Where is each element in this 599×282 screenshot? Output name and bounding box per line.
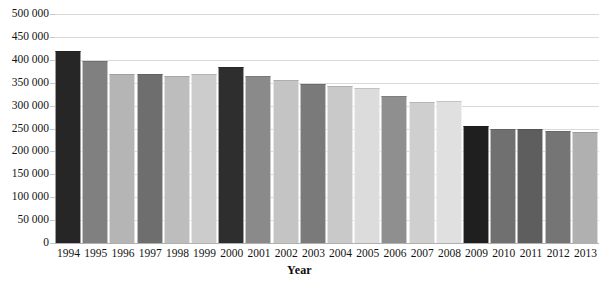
bar-2003[interactable] [300, 84, 326, 243]
x-tick-label-1999: 1999 [191, 246, 218, 260]
x-tick-label-2007: 2007 [409, 246, 436, 260]
y-axis-tick-labels: 050 000100 000150 000200 000250 000300 0… [0, 0, 50, 282]
x-tick-label-2003: 2003 [300, 246, 327, 260]
bar-2001[interactable] [245, 76, 271, 243]
bar-2011[interactable] [517, 129, 543, 244]
y-tick-label: 100 000 [0, 191, 49, 203]
bar-chart: 050 000100 000150 000200 000250 000300 0… [0, 0, 599, 282]
x-tick-label-2011: 2011 [517, 246, 544, 260]
x-tick-label-2012: 2012 [545, 246, 572, 260]
y-tick-label: 250 000 [0, 123, 49, 135]
y-tick-label: 450 000 [0, 31, 49, 43]
x-tick-label-2005: 2005 [354, 246, 381, 260]
bar-2009[interactable] [463, 126, 489, 243]
bar-2008[interactable] [436, 101, 462, 243]
x-tick-label-2008: 2008 [436, 246, 463, 260]
y-tick-label: 500 000 [0, 8, 49, 20]
x-tick-label-2000: 2000 [218, 246, 245, 260]
x-tick-label-2013: 2013 [572, 246, 599, 260]
plot-area [55, 14, 599, 243]
bar-2006[interactable] [381, 96, 407, 243]
x-axis-title: Year [0, 263, 599, 278]
x-tick-label-1994: 1994 [55, 246, 82, 260]
bar-2012[interactable] [545, 131, 571, 243]
bar-2005[interactable] [354, 88, 380, 243]
bar-2013[interactable] [572, 132, 598, 243]
gridline [55, 243, 599, 244]
bar-1994[interactable] [55, 51, 81, 243]
x-tick-label-1995: 1995 [82, 246, 109, 260]
x-tick-label-2006: 2006 [381, 246, 408, 260]
bar-2000[interactable] [218, 67, 244, 243]
x-tick-label-1996: 1996 [109, 246, 136, 260]
y-tick-label: 300 000 [0, 100, 49, 112]
bar-2002[interactable] [273, 80, 299, 244]
x-tick-label-2004: 2004 [327, 246, 354, 260]
y-tick-label: 150 000 [0, 168, 49, 180]
y-tick-label: 50 000 [0, 214, 49, 226]
bar-1999[interactable] [191, 74, 217, 243]
x-axis-tick-labels: 1994199519961997199819992000200120022003… [55, 246, 599, 262]
y-tick-label: 200 000 [0, 145, 49, 157]
bar-1996[interactable] [109, 74, 135, 243]
y-tick-label: 400 000 [0, 54, 49, 66]
bar-2010[interactable] [490, 129, 516, 244]
bar-1997[interactable] [137, 74, 163, 243]
bar-1998[interactable] [164, 76, 190, 243]
bar-2004[interactable] [327, 86, 353, 243]
x-tick-label-2002: 2002 [273, 246, 300, 260]
y-tick-label: 0 [0, 237, 49, 249]
bar-1995[interactable] [82, 61, 108, 243]
bar-series [55, 14, 599, 243]
y-tick-label: 350 000 [0, 77, 49, 89]
x-tick-label-1997: 1997 [137, 246, 164, 260]
x-tick-label-2010: 2010 [490, 246, 517, 260]
x-tick-label-2001: 2001 [245, 246, 272, 260]
x-tick-label-1998: 1998 [164, 246, 191, 260]
x-tick-label-2009: 2009 [463, 246, 490, 260]
bar-2007[interactable] [409, 102, 435, 243]
